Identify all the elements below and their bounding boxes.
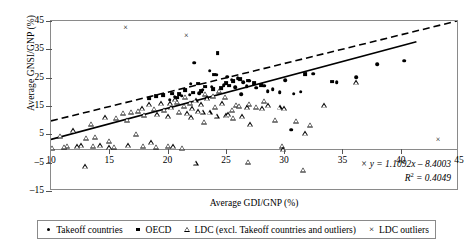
data-point-open-triangle	[154, 112, 160, 117]
data-point-open-triangle	[113, 115, 119, 120]
data-point-open-triangle	[302, 131, 308, 136]
data-point-open-triangle	[158, 101, 164, 106]
data-point-filled-circle	[239, 92, 243, 96]
data-point-open-triangle	[90, 143, 96, 148]
data-point-filled-square	[238, 77, 242, 81]
data-point-open-triangle	[272, 117, 278, 122]
y-tick-label: 5	[39, 130, 44, 140]
data-point-open-triangle	[200, 109, 206, 114]
data-point-filled-square	[161, 93, 165, 97]
data-point-open-triangle	[102, 115, 108, 120]
data-point-open-triangle	[188, 115, 194, 120]
y-tick	[46, 49, 52, 50]
x-tick	[284, 149, 285, 154]
data-point-open-triangle	[222, 94, 228, 99]
data-point-open-triangle	[106, 138, 112, 143]
data-point-filled-circle	[284, 78, 288, 82]
data-point-open-triangle	[179, 145, 185, 150]
regression-annotation: × y = 1.1092x – 8.4003 R2 = 0.4049	[361, 159, 451, 185]
data-point-open-triangle	[265, 103, 271, 108]
data-point-filled-circle	[208, 69, 212, 73]
x-tick-label: 15	[105, 156, 115, 166]
data-point-open-triangle	[239, 114, 245, 119]
y-tick	[46, 134, 52, 135]
data-point-filled-circle	[292, 92, 296, 96]
data-point-open-triangle	[170, 144, 176, 149]
data-point-open-triangle	[165, 114, 171, 119]
data-point-open-triangle	[210, 93, 216, 98]
data-point-filled-square	[147, 97, 151, 101]
data-point-open-triangle	[198, 102, 204, 107]
y-tick	[46, 191, 52, 192]
data-point-filled-circle	[245, 84, 249, 88]
data-point-open-triangle	[140, 143, 146, 148]
chart-figure: Average GNSI/GNP (%) ×××× –15–5515253545…	[0, 0, 473, 245]
data-point-open-triangle	[97, 143, 103, 148]
data-point-open-triangle	[57, 133, 63, 138]
x-tick-label: 45	[454, 156, 464, 166]
data-point-filled-circle	[278, 91, 282, 95]
legend-item-0[interactable]: Takeoff countries	[44, 225, 122, 235]
data-point-open-triangle	[176, 109, 182, 114]
regression-equation: y = 1.1092x – 8.4003	[370, 159, 451, 169]
data-point-open-triangle	[230, 115, 236, 120]
y-tick-label: –5	[35, 158, 45, 168]
data-point-open-triangle	[236, 104, 242, 109]
data-point-open-triangle	[353, 80, 359, 85]
data-point-open-triangle	[216, 88, 222, 93]
data-point-open-triangle	[281, 106, 287, 111]
data-point-open-triangle	[51, 145, 55, 150]
data-point-open-triangle	[246, 101, 252, 106]
data-point-open-triangle	[151, 106, 157, 111]
data-point-filled-circle	[233, 86, 237, 90]
data-point-filled-circle	[355, 75, 359, 79]
data-point-open-triangle	[83, 135, 89, 140]
data-point-open-triangle	[207, 110, 213, 115]
x-tick	[401, 149, 402, 154]
data-point-filled-circle	[254, 86, 258, 90]
x-tick-label: 25	[221, 156, 231, 166]
outlier-x-glyph: ×	[361, 159, 367, 169]
data-point-open-triangle	[125, 143, 131, 148]
data-point-filled-square	[191, 91, 195, 95]
data-point-filled-circle	[271, 87, 275, 91]
chart-legend: Takeoff countriesOECDLDC (excl. Takeoff …	[37, 220, 436, 239]
data-point-filled-square	[196, 82, 200, 86]
y-tick-label: –15	[30, 186, 44, 196]
legend-item-3[interactable]: ×LDC outliers	[367, 225, 429, 235]
data-point-filled-circle	[335, 80, 339, 84]
data-point-x-cross: ×	[123, 24, 128, 32]
data-point-filled-square	[154, 94, 158, 98]
data-point-open-triangle	[167, 101, 173, 106]
data-point-open-triangle	[247, 122, 253, 127]
data-point-open-triangle	[193, 160, 199, 165]
filled-square-icon	[134, 225, 143, 234]
data-point-open-triangle	[153, 144, 159, 149]
data-point-filled-square	[330, 80, 334, 84]
y-tick-label: 35	[35, 45, 45, 55]
data-point-open-triangle	[214, 113, 220, 118]
data-point-filled-square	[246, 79, 250, 83]
data-point-filled-circle	[193, 61, 197, 65]
x-tick	[168, 149, 169, 154]
data-point-open-triangle	[261, 98, 267, 103]
data-point-open-triangle	[120, 110, 126, 115]
data-point-open-triangle	[202, 91, 208, 96]
data-point-open-triangle	[148, 140, 154, 145]
x-cross-icon: ×	[367, 225, 376, 234]
data-point-open-triangle	[307, 122, 313, 127]
legend-item-2[interactable]: LDC (excl. Takeoff countries and outlier…	[182, 225, 356, 235]
x-tick-label: 30	[279, 156, 289, 166]
x-tick	[109, 149, 110, 154]
data-point-open-triangle	[128, 109, 134, 114]
data-point-filled-square	[216, 51, 220, 55]
x-tick-label: 20	[163, 156, 173, 166]
data-point-filled-square	[231, 79, 235, 83]
data-point-x-cross: ×	[436, 136, 441, 144]
legend-item-1[interactable]: OECD	[134, 225, 172, 235]
data-point-open-triangle	[201, 119, 207, 124]
legend-item-label: OECD	[146, 225, 172, 235]
solid-regression-line	[51, 42, 416, 140]
data-point-filled-square	[259, 83, 263, 87]
data-point-open-triangle	[280, 147, 286, 152]
